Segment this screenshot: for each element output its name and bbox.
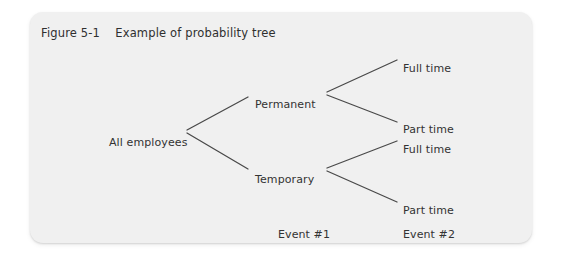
branch-permanent-to-fulltime xyxy=(327,60,397,92)
figure-card: Figure 5-1 Example of probability tree A… xyxy=(30,12,532,243)
branch-permanent-to-parttime xyxy=(327,95,397,122)
branch-root-to-permanent xyxy=(187,97,248,130)
event-label-1: Event #1 xyxy=(278,228,330,241)
tree-leaf-temporary-part-time: Part time xyxy=(403,204,454,217)
branch-root-to-temporary xyxy=(187,133,248,169)
tree-node-permanent: Permanent xyxy=(255,98,316,111)
tree-branches xyxy=(30,12,532,243)
tree-leaf-permanent-full-time: Full time xyxy=(403,62,451,75)
event-label-2: Event #2 xyxy=(403,228,455,241)
branch-temporary-to-parttime xyxy=(327,171,397,202)
branch-temporary-to-fulltime xyxy=(327,141,397,168)
tree-leaf-temporary-full-time: Full time xyxy=(403,143,451,156)
tree-node-all-employees: All employees xyxy=(109,136,187,149)
tree-leaf-permanent-part-time: Part time xyxy=(403,123,454,136)
tree-node-temporary: Temporary xyxy=(255,173,314,186)
